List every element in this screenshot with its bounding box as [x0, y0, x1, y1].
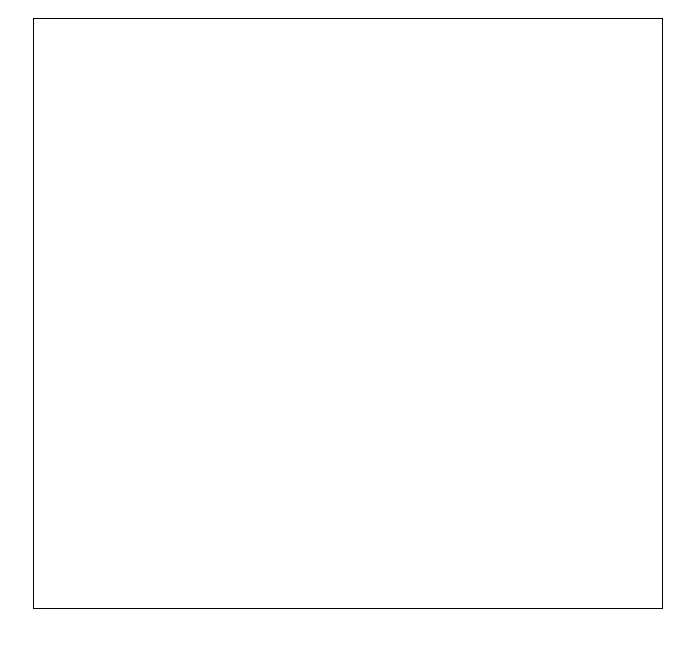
- chart-plot-area: [33, 18, 663, 609]
- methane-chart-svg: [33, 18, 663, 609]
